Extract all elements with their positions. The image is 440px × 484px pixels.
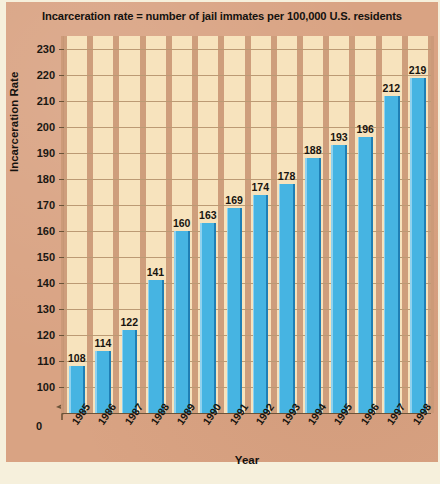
gridline-horizontal — [64, 257, 431, 258]
gridline-horizontal — [64, 335, 431, 336]
chart-panel: Incarceration rate = number of jail imma… — [6, 2, 438, 462]
bar: 2191998 — [410, 78, 426, 413]
y-axis-tick — [59, 75, 64, 76]
y-axis-tick-label: 230 — [37, 43, 55, 55]
y-axis-tick — [59, 283, 64, 284]
gridline-vertical — [245, 36, 251, 413]
footer-caption — [0, 470, 440, 484]
bar-value-label: 114 — [95, 337, 112, 349]
bar-value-label: 163 — [199, 209, 217, 221]
bar-value-label: 108 — [68, 352, 86, 364]
gridline-horizontal — [64, 49, 431, 50]
gridline-vertical — [87, 36, 93, 413]
bar: 1141986 — [95, 351, 111, 413]
y-axis-tick — [59, 257, 64, 258]
y-axis-tick-label: 160 — [37, 225, 55, 237]
y-axis-tick — [59, 101, 64, 102]
gridline-vertical — [323, 36, 329, 413]
bar: 1411988 — [148, 280, 164, 413]
plot-area: 1001101201301401501601701801902002102202… — [63, 36, 431, 414]
chart-figure: Incarceration rate = number of jail imma… — [0, 0, 440, 484]
y-axis-tick — [59, 361, 64, 362]
gridline-vertical — [113, 36, 119, 413]
bar: 1631990 — [200, 223, 216, 413]
bar-value-label: 174 — [252, 181, 270, 193]
bar-value-label: 141 — [147, 266, 165, 278]
gridline-vertical — [218, 36, 224, 413]
gridline-horizontal — [64, 231, 431, 232]
bar-value-label: 212 — [383, 82, 401, 94]
gridline-vertical — [192, 36, 198, 413]
gridline-vertical — [349, 36, 355, 413]
x-axis-tick-label: 1994 — [305, 401, 328, 427]
y-axis-tick-label: 170 — [37, 199, 55, 211]
gridline-vertical — [376, 36, 382, 413]
y-axis-tick-label: 190 — [37, 147, 55, 159]
bar: 1881994 — [305, 158, 321, 413]
x-axis-tick-label: 1988 — [148, 401, 171, 427]
gridline-horizontal — [64, 283, 431, 284]
bar: 1081985 — [69, 366, 85, 413]
y-axis-tick-label: 150 — [37, 251, 55, 263]
y-axis-tick-label: 210 — [37, 95, 55, 107]
gridline-vertical — [140, 36, 146, 413]
bar: 2121997 — [384, 96, 400, 413]
x-axis-tick-label: 1997 — [384, 401, 407, 427]
bar-value-label: 178 — [278, 170, 296, 182]
bar: 1691991 — [227, 208, 243, 413]
bar: 1931995 — [331, 145, 347, 413]
y-axis-tick — [59, 127, 64, 128]
gridline-vertical — [61, 36, 67, 413]
y-axis-tick — [59, 179, 64, 180]
x-axis-tick-label: 1986 — [95, 401, 118, 427]
y-axis-tick — [59, 387, 64, 388]
y-axis-tick-label: 180 — [37, 173, 55, 185]
bar-value-label: 193 — [330, 131, 348, 143]
y-axis-tick — [59, 335, 64, 336]
gridline-vertical — [428, 36, 434, 413]
bar-value-label: 196 — [356, 123, 374, 135]
gridline-horizontal — [64, 361, 431, 362]
gridline-horizontal — [64, 101, 431, 102]
bar-value-label: 219 — [409, 64, 427, 76]
gridline-horizontal — [64, 387, 431, 388]
gridline-vertical — [297, 36, 303, 413]
x-axis-tick-label: 1987 — [122, 401, 145, 427]
gridline-vertical — [271, 36, 277, 413]
y-axis-tick — [59, 205, 64, 206]
gridline-horizontal — [64, 309, 431, 310]
gridline-vertical — [402, 36, 408, 413]
y-axis-tick-label: 200 — [37, 121, 55, 133]
y-axis-title: Incarceration Rate — [8, 72, 20, 172]
y-axis-tick-label: 110 — [37, 355, 55, 367]
bar-value-label: 160 — [173, 217, 191, 229]
x-axis-title: Year — [63, 454, 431, 466]
x-axis-tick-label: 1998 — [410, 401, 433, 427]
x-axis-tick-label: 1995 — [331, 401, 354, 427]
x-axis-tick-label: 1992 — [253, 401, 276, 427]
y-axis-tick — [59, 231, 64, 232]
bar: 1741992 — [253, 195, 269, 413]
gridline-horizontal — [64, 127, 431, 128]
bar-value-label: 188 — [304, 144, 322, 156]
x-axis-tick-label: 1985 — [69, 401, 92, 427]
chart-title: Incarceration rate = number of jail imma… — [6, 10, 438, 22]
gridline-horizontal — [64, 75, 431, 76]
bar: 1601989 — [174, 231, 190, 413]
x-axis-tick-label: 1990 — [200, 401, 223, 427]
bar-value-label: 122 — [120, 316, 138, 328]
y-axis-tick-label: 130 — [37, 303, 55, 315]
bar-value-label: 169 — [225, 194, 243, 206]
x-axis-tick-label: 1991 — [227, 401, 250, 427]
x-axis-tick-label: 1989 — [174, 401, 197, 427]
bar: 1221987 — [122, 330, 138, 413]
gridline-horizontal — [64, 179, 431, 180]
bar: 1961996 — [358, 137, 374, 413]
y-axis-tick — [59, 49, 64, 50]
x-axis-tick-label: 1996 — [358, 401, 381, 427]
y-axis-zero-label: 0 — [36, 420, 42, 432]
y-axis-tick — [59, 309, 64, 310]
gridline-vertical — [166, 36, 172, 413]
y-axis-tick-label: 120 — [37, 329, 55, 341]
x-axis-tick-label: 1993 — [279, 401, 302, 427]
